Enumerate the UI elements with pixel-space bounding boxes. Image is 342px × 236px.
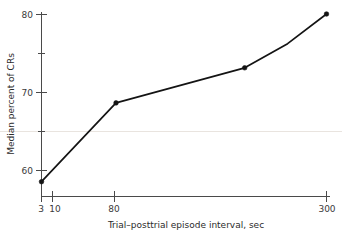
data-series-line [42,14,327,182]
y-tick-label-60: 60 [22,166,34,176]
y-axis-title: Median percent of CRs [6,53,16,155]
chart-figure: 80 70 60 3 10 80 300 Median percent of C… [0,0,342,236]
data-point [39,179,44,184]
line-chart-svg: 80 70 60 3 10 80 300 Median percent of C… [0,0,342,236]
y-tick-label-80: 80 [22,10,34,20]
x-axis-title: Trial–posttrial episode interval, sec [107,220,264,230]
data-series-markers [39,12,329,184]
x-tick-label-300: 300 [318,204,335,214]
data-point [242,66,247,71]
data-point [324,12,329,17]
y-tick-label-70: 70 [22,88,34,98]
x-tick-label-10: 10 [49,204,61,214]
data-series-group [39,12,329,184]
x-tick-label-80: 80 [108,204,120,214]
x-tick-label-3: 3 [38,204,44,214]
data-point [114,101,119,106]
